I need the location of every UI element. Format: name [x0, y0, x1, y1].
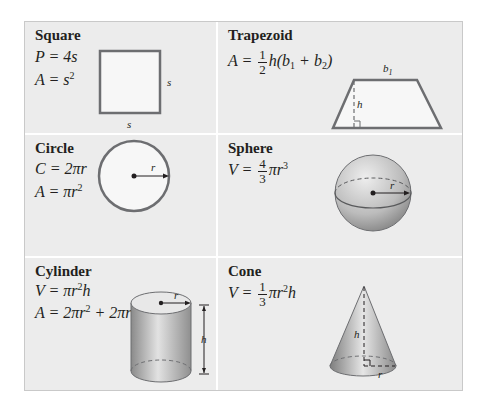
svg-text:r: r — [390, 179, 395, 191]
square-area-formula: A = s2 — [35, 70, 75, 89]
svg-text:h: h — [357, 98, 363, 110]
circle-cell: Circle C = 2πr A = πr2 r — [25, 135, 216, 256]
cylinder-title: Cylinder — [35, 263, 92, 280]
cylinder-area-formula: A = 2πr2 + 2πrh — [35, 303, 139, 322]
square-title: Square — [35, 27, 81, 44]
svg-text:h: h — [201, 333, 207, 345]
cone-diagram: h r — [330, 286, 410, 386]
svg-text:r: r — [378, 368, 383, 380]
circle-area-formula: A = πr2 — [35, 182, 83, 201]
svg-text:r: r — [174, 289, 179, 301]
trapezoid-diagram: b1 h b2 — [328, 44, 453, 124]
square-diagram: s s — [99, 50, 169, 130]
sphere-volume-formula: V = 43πr3 — [228, 157, 288, 186]
circle-title: Circle — [35, 140, 74, 157]
svg-text:r: r — [151, 161, 156, 173]
geometry-formulas-table: Square P = 4s A = s2 s s Trapezoid A = 1… — [24, 21, 463, 391]
square-perimeter-formula: P = 4s — [35, 48, 78, 66]
cylinder-volume-formula: V = πr2h — [35, 281, 91, 300]
square-cell: Square P = 4s A = s2 s s — [25, 22, 216, 133]
square-bottom-label: s — [127, 118, 131, 130]
sphere-diagram: r — [335, 154, 415, 234]
trapezoid-title: Trapezoid — [228, 27, 293, 44]
trapezoid-cell: Trapezoid A = 12h(b1 + b2) b1 h b2 — [218, 22, 462, 133]
cylinder-diagram: r h — [131, 292, 231, 392]
cone-cell: Cone V = 13πr2h h r — [218, 258, 462, 390]
cylinder-cell: Cylinder V = πr2h A = 2πr2 + 2πrh r — [25, 258, 216, 390]
sphere-title: Sphere — [228, 140, 273, 157]
cone-volume-formula: V = 13πr2h — [228, 280, 296, 309]
svg-text:b1: b1 — [383, 62, 393, 77]
sphere-cell: Sphere V = 43πr3 r — [218, 135, 462, 256]
trapezoid-area-formula: A = 12h(b1 + b2) — [228, 48, 332, 77]
circle-diagram: r — [99, 139, 179, 219]
square-side-label: s — [167, 76, 171, 88]
svg-text:h: h — [354, 328, 360, 340]
circle-circumference-formula: C = 2πr — [35, 160, 87, 178]
cone-title: Cone — [228, 263, 261, 280]
